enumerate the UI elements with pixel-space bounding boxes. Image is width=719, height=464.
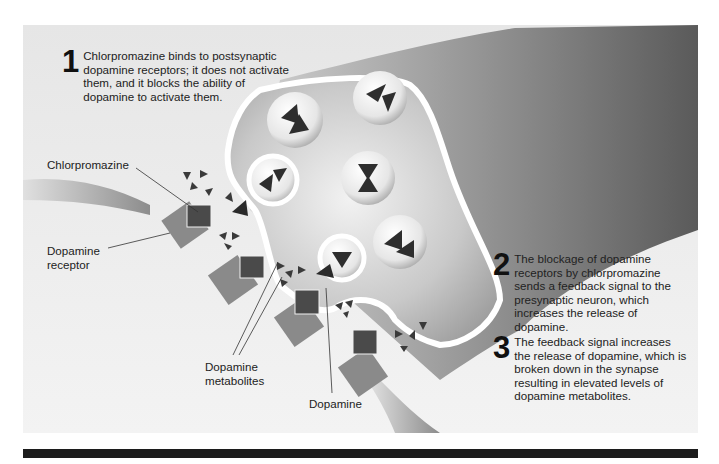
vesicle-fusing [249, 156, 297, 204]
label-line: Dopamine [205, 360, 264, 374]
chlorpromazine-molecule [240, 256, 264, 278]
bottom-bar [23, 449, 698, 458]
step-text: The blockage of dopamine receptors by ch… [514, 252, 683, 334]
label-dopamine-receptor: Dopamine receptor [47, 244, 100, 271]
postsynaptic-dendrite-left [23, 179, 150, 215]
step-3: 3 The feedback signal increases the rele… [493, 335, 688, 403]
chlorpromazine-molecule [295, 290, 319, 314]
vesicle [341, 151, 395, 205]
vesicle [353, 71, 407, 125]
label-chlorpromazine: Chlorpromazine [47, 158, 129, 172]
label-dopamine-metabolites: Dopamine metabolites [205, 360, 264, 387]
step-number: 3 [493, 335, 510, 361]
label-dopamine: Dopamine [309, 397, 362, 411]
chlorpromazine-molecule [187, 205, 211, 227]
step-2: 2 The blockage of dopamine receptors by … [493, 252, 683, 334]
chlorpromazine-molecule [353, 330, 377, 354]
vesicle [373, 215, 427, 269]
step-number: 1 [62, 49, 79, 75]
label-line: metabolites [205, 374, 264, 388]
step-number: 2 [493, 252, 510, 278]
label-line: Dopamine [47, 244, 100, 258]
postsynaptic-dendrite-right [370, 380, 440, 433]
step-text: The feedback signal increases the releas… [514, 335, 688, 403]
label-line: receptor [47, 258, 100, 272]
step-1: 1 Chlorpromazine binds to postsynaptic d… [62, 49, 292, 103]
step-text: Chlorpromazine binds to postsynaptic dop… [83, 49, 292, 103]
